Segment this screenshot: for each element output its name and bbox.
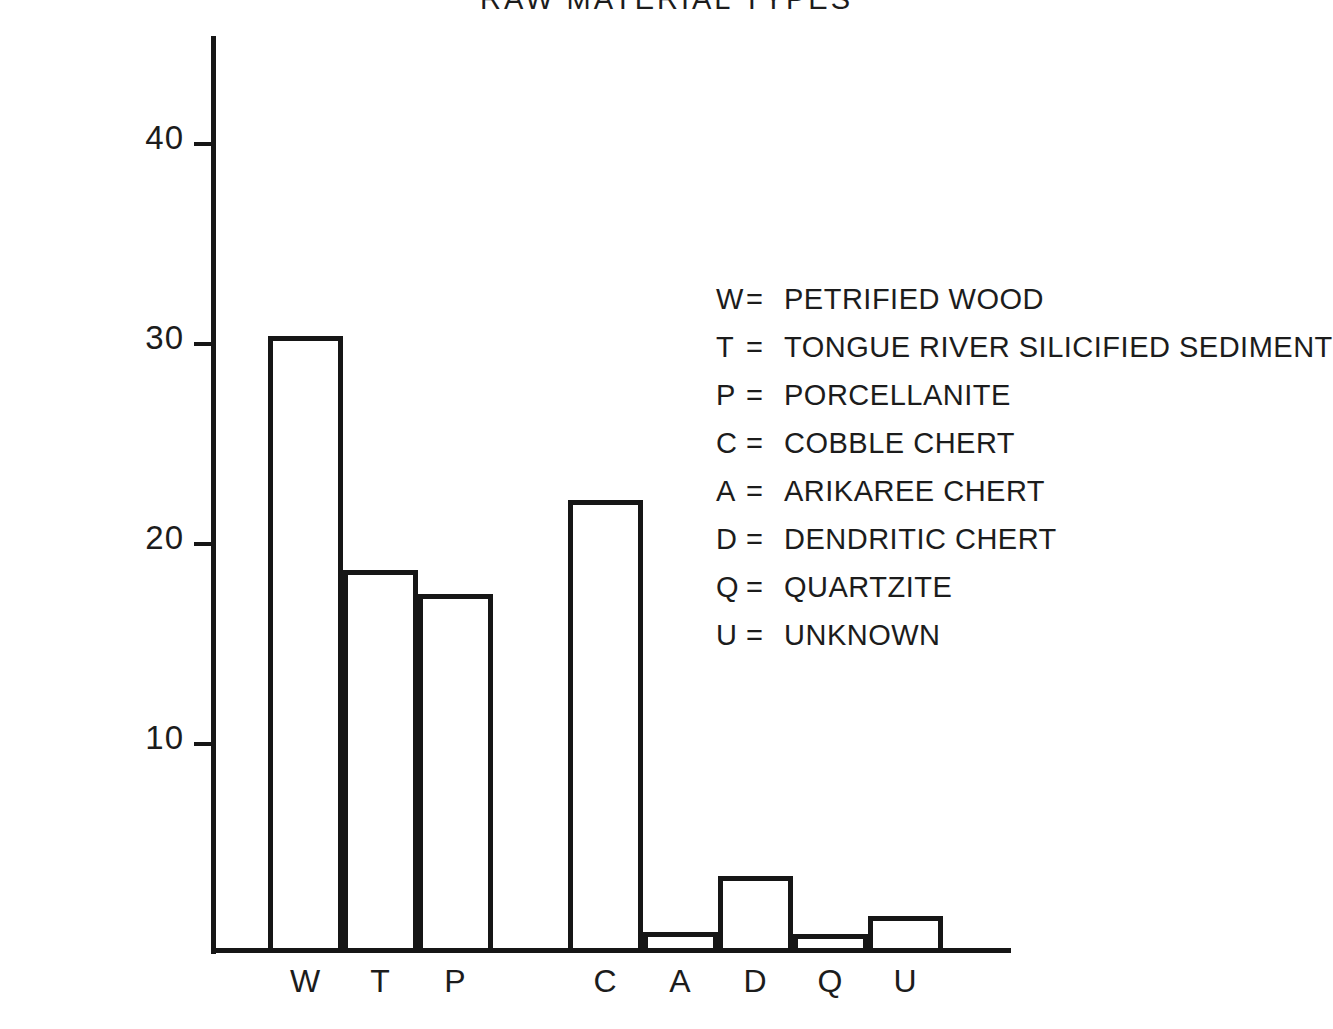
legend-key-u: U — [716, 619, 746, 652]
legend-equals-w: = — [746, 283, 784, 316]
bar-t — [343, 570, 418, 948]
legend-key-t: T — [716, 331, 746, 364]
legend-item-t: T = TONGUE RIVER SILICIFIED SEDIMENT — [716, 331, 1333, 379]
legend-description-u: UNKNOWN — [784, 619, 941, 652]
y-tick-label-40: 40 — [74, 119, 184, 157]
bar-chart-raw-material-types: RAW MATERIAL TYPES PERCENT 40 30 20 10 W… — [0, 0, 1333, 1029]
legend: W = PETRIFIED WOOD T = TONGUE RIVER SILI… — [716, 283, 1333, 667]
x-axis-line — [211, 948, 1011, 953]
legend-equals-q: = — [746, 571, 784, 604]
x-tick-label-w: W — [275, 963, 335, 1000]
y-tick-mark-10 — [194, 742, 216, 746]
legend-equals-u: = — [746, 619, 784, 652]
y-tick-label-10: 10 — [74, 719, 184, 757]
y-tick-mark-30 — [194, 342, 216, 346]
x-tick-label-p: P — [425, 963, 485, 1000]
legend-description-d: DENDRITIC CHERT — [784, 523, 1057, 556]
legend-description-w: PETRIFIED WOOD — [784, 283, 1044, 316]
legend-item-u: U = UNKNOWN — [716, 619, 1333, 667]
x-tick-label-t: T — [350, 963, 410, 1000]
y-tick-mark-20 — [194, 542, 216, 546]
legend-equals-c: = — [746, 427, 784, 460]
x-tick-label-a: A — [650, 963, 710, 1000]
legend-item-p: P = PORCELLANITE — [716, 379, 1333, 427]
legend-equals-d: = — [746, 523, 784, 556]
legend-key-a: A — [716, 475, 746, 508]
bar-u — [868, 916, 943, 948]
legend-key-c: C — [716, 427, 746, 460]
legend-description-q: QUARTZITE — [784, 571, 952, 604]
legend-equals-a: = — [746, 475, 784, 508]
legend-description-p: PORCELLANITE — [784, 379, 1011, 412]
bar-a — [643, 932, 718, 948]
y-tick-mark-40 — [194, 142, 216, 146]
x-tick-label-q: Q — [800, 963, 860, 1000]
bar-d — [718, 876, 793, 948]
bar-q — [793, 934, 868, 948]
x-tick-label-u: U — [875, 963, 935, 1000]
x-tick-label-c: C — [575, 963, 635, 1000]
legend-description-c: COBBLE CHERT — [784, 427, 1015, 460]
chart-title: RAW MATERIAL TYPES — [0, 0, 1333, 16]
legend-equals-t: = — [746, 331, 784, 364]
legend-description-a: ARIKAREE CHERT — [784, 475, 1045, 508]
legend-item-q: Q = QUARTZITE — [716, 571, 1333, 619]
legend-key-w: W — [716, 283, 746, 316]
legend-item-w: W = PETRIFIED WOOD — [716, 283, 1333, 331]
legend-description-t: TONGUE RIVER SILICIFIED SEDIMENT — [784, 331, 1333, 364]
bar-w — [268, 336, 343, 948]
legend-key-d: D — [716, 523, 746, 556]
x-tick-label-d: D — [725, 963, 785, 1000]
legend-key-q: Q — [716, 571, 746, 604]
bar-p — [418, 594, 493, 948]
y-tick-label-30: 30 — [74, 319, 184, 357]
legend-item-a: A = ARIKAREE CHERT — [716, 475, 1333, 523]
legend-item-d: D = DENDRITIC CHERT — [716, 523, 1333, 571]
legend-key-p: P — [716, 379, 746, 412]
bar-c — [568, 500, 643, 948]
legend-item-c: C = COBBLE CHERT — [716, 427, 1333, 475]
y-axis-line — [211, 36, 216, 954]
y-tick-label-20: 20 — [74, 519, 184, 557]
legend-equals-p: = — [746, 379, 784, 412]
